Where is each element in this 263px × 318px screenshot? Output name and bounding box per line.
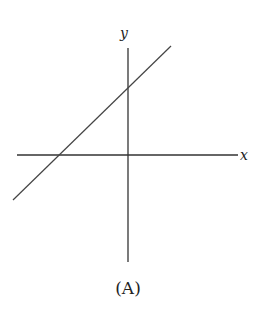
coordinate-plot: x y (A)	[0, 0, 263, 318]
figure-canvas: x y (A)	[0, 0, 263, 318]
y-axis-label: y	[119, 25, 129, 41]
figure-caption: (A)	[115, 278, 141, 298]
graph-line	[13, 46, 171, 200]
x-axis-label: x	[240, 147, 248, 163]
